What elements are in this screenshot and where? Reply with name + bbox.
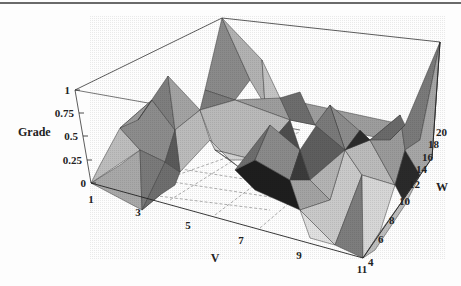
y-tick-6: 6 <box>378 233 384 245</box>
y-tick-4: 4 <box>368 256 374 268</box>
z-tick-075: 0.75 <box>55 107 75 119</box>
y-tick-10: 10 <box>399 195 411 207</box>
x-tick-7: 7 <box>238 234 244 246</box>
y-tick-8: 8 <box>389 214 395 226</box>
y-tick-18: 18 <box>428 138 440 150</box>
figure-page: 1 0.75 0.5 0.25 0 Grade 1 3 5 7 9 11 V 4… <box>0 0 461 286</box>
x-axis-title: V <box>211 251 220 265</box>
z-tick-1: 1 <box>65 84 71 96</box>
x-tick-9: 9 <box>296 249 302 261</box>
z-tick-0: 0 <box>81 177 87 189</box>
surface-plot: 1 0.75 0.5 0.25 0 Grade 1 3 5 7 9 11 V 4… <box>0 0 461 286</box>
y-tick-20: 20 <box>436 126 448 138</box>
y-tick-16: 16 <box>422 151 434 163</box>
z-tick-025: 0.25 <box>63 154 83 166</box>
x-tick-1: 1 <box>88 193 94 205</box>
z-axis-tick-labels: 1 0.75 0.5 0.25 0 <box>55 84 87 189</box>
y-tick-14: 14 <box>416 163 428 175</box>
y-tick-12: 12 <box>409 178 421 190</box>
x-tick-5: 5 <box>185 219 191 231</box>
z-axis-title: Grade <box>18 125 51 139</box>
z-axis-ticks <box>75 90 96 183</box>
x-tick-3: 3 <box>135 206 141 218</box>
z-tick-05: 0.5 <box>64 130 78 142</box>
y-axis-title: W <box>436 180 448 194</box>
x-tick-11: 11 <box>357 263 367 275</box>
